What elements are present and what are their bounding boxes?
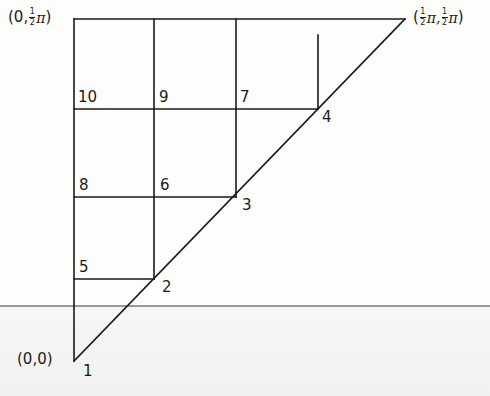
pi-symbol: π — [36, 11, 45, 25]
node-label-7: 7 — [240, 90, 250, 105]
fraction-half: 1 2 — [442, 8, 448, 27]
label-text: ( — [413, 10, 419, 25]
corner-label-top-right: ( 1 2 π, 1 2 π ) — [413, 8, 464, 27]
fraction-numerator: 1 — [442, 8, 447, 16]
corner-label-origin: (0,0) — [17, 352, 53, 367]
fraction-denominator: 2 — [420, 19, 425, 27]
node-label-10: 10 — [78, 90, 97, 105]
node-label-9: 9 — [159, 90, 169, 105]
pi-symbol: π, — [427, 11, 441, 25]
corner-label-top-left: (0, 1 2 π ) — [8, 8, 51, 27]
node-label-1: 1 — [83, 364, 93, 379]
node-label-5: 5 — [79, 260, 89, 275]
fraction-numerator: 1 — [420, 8, 425, 16]
node-label-3: 3 — [242, 198, 252, 213]
label-text: ) — [45, 10, 51, 25]
node-label-8: 8 — [79, 178, 89, 193]
node-label-6: 6 — [160, 178, 170, 193]
fraction-denominator: 2 — [30, 19, 35, 27]
label-text: (0, — [8, 10, 28, 25]
pi-symbol: π — [449, 11, 458, 25]
fraction-denominator: 2 — [442, 19, 447, 27]
fraction-half: 1 2 — [420, 8, 426, 27]
fraction-numerator: 1 — [30, 8, 35, 16]
node-label-4: 4 — [322, 110, 332, 125]
fraction-half: 1 2 — [29, 8, 35, 27]
node-label-2: 2 — [162, 280, 172, 295]
diagonal-edge — [74, 19, 405, 361]
label-text: ) — [458, 10, 464, 25]
